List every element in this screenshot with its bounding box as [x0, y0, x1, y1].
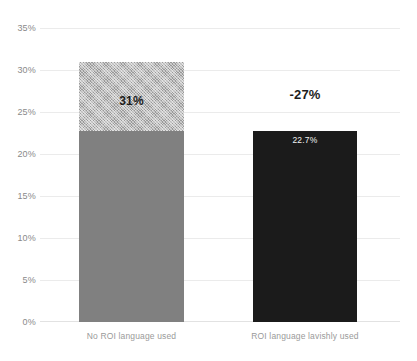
bar-segment-solid: [253, 131, 357, 322]
y-tick-label: 15%: [2, 191, 36, 201]
bar-value-label: 31%: [79, 94, 184, 108]
y-tick-label: 5%: [2, 275, 36, 285]
bar-segment-baseline: [79, 131, 184, 322]
y-tick-label: 20%: [2, 149, 36, 159]
y-tick-label: 10%: [2, 233, 36, 243]
delta-annotation: -27%: [253, 87, 357, 102]
category-label-roi-lavish: ROI language lavishly used: [203, 331, 407, 341]
y-tick-label: 0%: [2, 317, 36, 327]
y-tick-label: 35%: [2, 23, 36, 33]
gridline-35: [40, 28, 400, 29]
bar-no-roi-language[interactable]: 31%: [79, 62, 184, 322]
plot-area: 31% 22.7% -27%: [40, 28, 400, 322]
y-axis: 35% 30% 25% 20% 15% 10% 5% 0%: [0, 28, 36, 322]
y-tick-label: 30%: [2, 65, 36, 75]
bar-value-label: 22.7%: [253, 135, 357, 145]
y-tick-label: 25%: [2, 107, 36, 117]
bar-roi-language-lavish[interactable]: 22.7% -27%: [253, 131, 357, 322]
bar-chart: 35% 30% 25% 20% 15% 10% 5% 0% 31% 22.7% …: [0, 0, 417, 361]
